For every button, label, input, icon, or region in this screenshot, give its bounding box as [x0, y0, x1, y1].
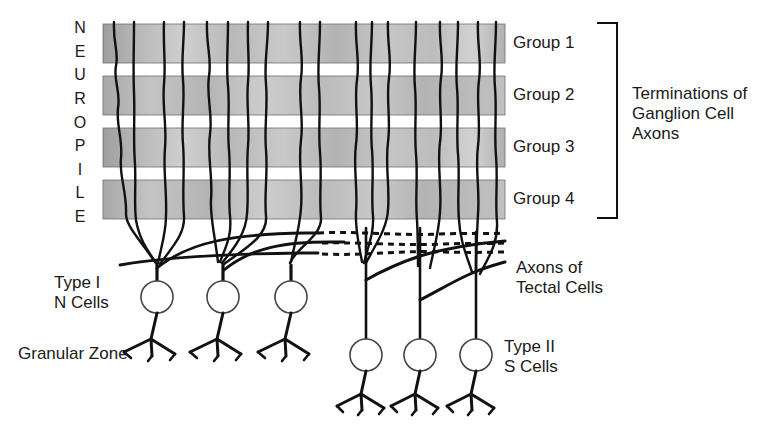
n-cell-axon-branch-tip: [190, 352, 241, 361]
terminations-caption-line-3: Axons: [632, 124, 679, 144]
n-cell-axon-branch-tip: [258, 352, 309, 361]
type-two-label-line-1: Type II: [504, 337, 555, 357]
granular-zone-label: Granular Zone: [18, 344, 128, 364]
tectal-axon-dashed: [322, 252, 505, 255]
type-one-n-cells: [124, 263, 309, 361]
neuropile-letter: R: [74, 91, 86, 107]
s-cell-axon: [471, 371, 476, 394]
neuropile-letter: E: [75, 209, 86, 225]
neuropile-letter: U: [74, 67, 86, 83]
neuropile-letter: O: [74, 115, 86, 131]
n-cell-axon: [151, 313, 157, 339]
s-cell-axon-branch: [337, 394, 384, 410]
n-cell-soma: [275, 281, 307, 313]
neuropile-letter: P: [75, 138, 86, 154]
group-4-label: Group 4: [513, 189, 574, 209]
type-two-label-line-2: S Cells: [504, 357, 558, 377]
type-one-n-cell: [124, 263, 175, 361]
n-cell-axon-branch: [190, 339, 241, 356]
n-cell-axon-branch-tip: [124, 352, 175, 361]
group-2-label: Group 2: [513, 85, 574, 105]
n-cell-axon-branch: [258, 339, 309, 356]
terminations-caption-line-1: Terminations of: [632, 84, 747, 104]
s-cell-axon-branch: [391, 394, 438, 410]
s-cell-soma: [460, 339, 492, 371]
group-3-label: Group 3: [513, 137, 574, 157]
type-two-s-cells: [337, 228, 505, 415]
neuropile-letter: L: [76, 185, 85, 201]
n-cell-soma: [207, 281, 239, 313]
neuropile-letter: I: [78, 162, 82, 178]
group-1-label: Group 1: [513, 33, 574, 53]
type-one-n-cell: [258, 265, 309, 361]
n-cell-axon: [217, 313, 223, 339]
s-cell-soma: [350, 339, 382, 371]
tectal-axons-label-line-1: Axons of: [516, 258, 582, 278]
n-cell-soma: [141, 281, 173, 313]
neuropile-band-group-4: [103, 180, 505, 219]
s-cell-ascending-axon: [420, 262, 505, 300]
n-cell-horizontal-axon: [224, 242, 344, 270]
neuropile-band-group-3: [103, 128, 505, 167]
tectal-axons-label-line-2: Tectal Cells: [516, 278, 603, 298]
n-cell-axon: [285, 313, 291, 339]
terminations-bracket: [597, 23, 617, 218]
n-cell-axon-branch: [124, 339, 175, 356]
diagram-svg: [0, 0, 758, 434]
type-one-label-line-1: Type I: [54, 273, 100, 293]
s-cell-axon: [361, 371, 366, 394]
s-cell-soma: [404, 339, 436, 371]
s-cell-axon: [415, 371, 420, 394]
terminations-caption-line-2: Ganglion Cell: [632, 104, 734, 124]
neuropile-letter: E: [75, 44, 86, 60]
type-one-label-line-2: N Cells: [54, 293, 109, 313]
s-cell-axon-branch: [447, 394, 494, 410]
neuropile-vertical-label: N E U R O P I L E: [68, 20, 92, 225]
type-one-n-cell: [190, 265, 241, 361]
neuropile-letter: N: [74, 20, 86, 36]
figure-canvas: N E U R O P I L E Group 1 Group 2 Group …: [0, 0, 758, 434]
